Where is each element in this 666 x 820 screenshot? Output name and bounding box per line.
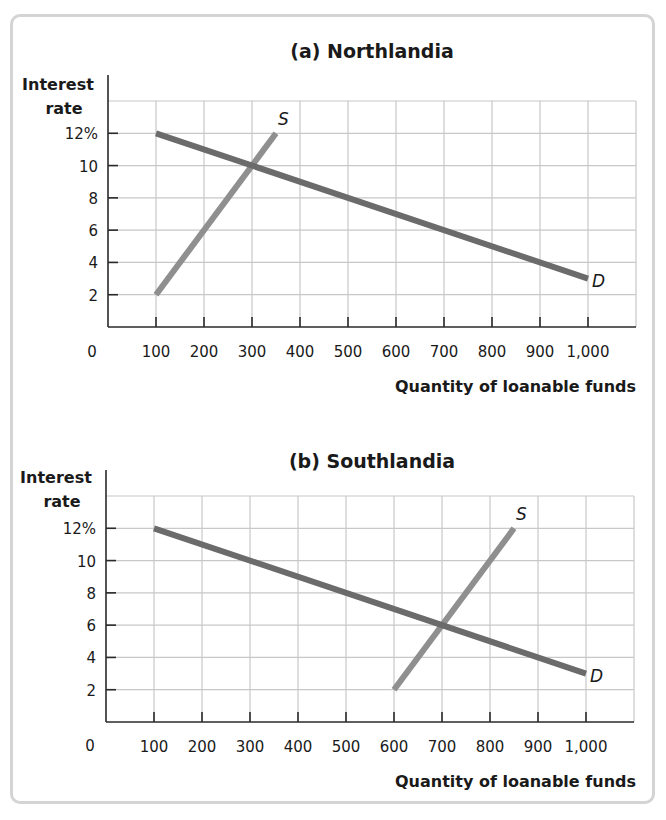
grid (106, 496, 634, 722)
y-axis-label-line2: rate (45, 99, 82, 118)
demand-curve-label: D (590, 666, 603, 686)
x-axis-label: Quantity of loanable funds (395, 377, 636, 396)
y-tick-label: 4 (88, 254, 98, 272)
x-tick-label: 300 (238, 343, 267, 361)
x-tick-label: 600 (380, 738, 409, 756)
y-axis-label-line1: Interest (22, 75, 94, 94)
x-tick-label: 400 (284, 738, 313, 756)
x-tick-label: 900 (526, 343, 555, 361)
curves: SD (156, 109, 605, 294)
x-tick-label: 100 (142, 343, 171, 361)
origin-label: 0 (87, 343, 97, 361)
x-axis-label: Quantity of loanable funds (395, 772, 636, 791)
x-tick-label: 800 (476, 738, 505, 756)
chart-canvas: (a) Northlandia Interest rate 1002003004… (0, 0, 666, 820)
y-tick-label: 2 (88, 287, 98, 305)
y-tick-label: 10 (79, 158, 98, 176)
x-tick-label: 200 (190, 343, 219, 361)
x-tick-label: 500 (332, 738, 361, 756)
y-axis-label-line2: rate (43, 492, 80, 511)
y-tick-label: 12% (65, 125, 98, 143)
supply-curve-label: S (516, 504, 527, 524)
origin-label: 0 (85, 737, 95, 755)
panel-northlandia: (a) Northlandia Interest rate 1002003004… (22, 40, 636, 396)
y-tick-label: 8 (86, 585, 96, 603)
grid (108, 101, 636, 327)
y-tick-label: 6 (88, 222, 98, 240)
panel-southlandia: (b) Southlandia Interest rate 1002003004… (20, 450, 636, 791)
x-tick-label: 400 (286, 343, 315, 361)
supply-curve-label: S (278, 109, 289, 129)
x-tick-label: 500 (334, 343, 363, 361)
y-axis-label-line1: Interest (20, 468, 92, 487)
x-tick-label: 900 (524, 738, 553, 756)
y-tick-label: 2 (86, 682, 96, 700)
supply-curve (394, 528, 514, 689)
y-tick-label: 6 (86, 617, 96, 635)
x-tick-label: 200 (188, 738, 217, 756)
curves: SD (154, 504, 603, 689)
x-tick-label: 600 (382, 343, 411, 361)
y-tick-label: 4 (86, 649, 96, 667)
x-tick-label: 1,000 (565, 738, 608, 756)
x-tick-label: 100 (140, 738, 169, 756)
ticks: 1002003004005006007008009001,00024681012… (63, 470, 634, 756)
y-tick-label: 8 (88, 190, 98, 208)
supply-curve (156, 133, 276, 294)
demand-curve-label: D (592, 271, 605, 291)
y-tick-label: 10 (77, 553, 96, 571)
x-tick-label: 700 (428, 738, 457, 756)
y-tick-label: 12% (63, 520, 96, 538)
x-tick-label: 300 (236, 738, 265, 756)
x-tick-label: 800 (478, 343, 507, 361)
panel-title: (a) Northlandia (290, 40, 454, 62)
demand-curve (154, 528, 586, 673)
panel-title: (b) Southlandia (289, 450, 455, 472)
ticks: 1002003004005006007008009001,00024681012… (65, 75, 636, 361)
x-tick-label: 1,000 (567, 343, 610, 361)
x-tick-label: 700 (430, 343, 459, 361)
